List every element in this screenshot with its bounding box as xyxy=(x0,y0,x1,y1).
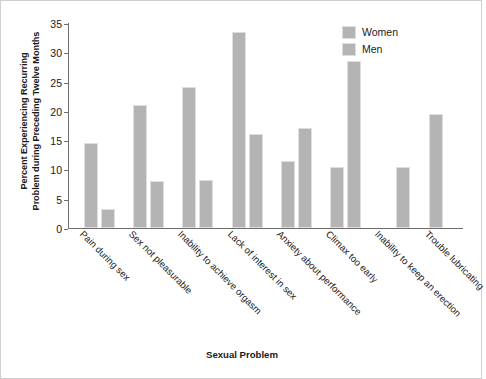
x-axis-tick-label: Climax too early xyxy=(324,229,380,285)
y-axis-tick-label: 10 xyxy=(38,165,62,175)
x-axis-title: Sexual Problem xyxy=(1,349,483,360)
bar-women xyxy=(330,167,344,229)
bar-men xyxy=(347,61,361,228)
x-axis-tick-label: Inability to keep an erection xyxy=(373,229,463,319)
bar-group xyxy=(429,23,456,228)
bar-group xyxy=(182,23,209,228)
bar-women xyxy=(84,143,98,228)
y-axis-tick-label: 5 xyxy=(38,195,62,205)
bar-men xyxy=(298,128,312,228)
legend-item-women: Women xyxy=(342,25,398,39)
bar-group xyxy=(133,23,160,228)
y-axis-tick-label: 20 xyxy=(38,107,62,117)
legend: Women Men xyxy=(342,25,398,56)
bar-men xyxy=(396,167,410,228)
y-axis-tick-label: 30 xyxy=(38,48,62,58)
bar-men xyxy=(199,180,213,228)
y-axis-tick-label: 35 xyxy=(38,19,62,29)
legend-swatch-men-icon xyxy=(342,43,356,56)
plot-area: 05101520253035 xyxy=(68,23,463,229)
bar-group xyxy=(281,23,308,228)
legend-item-men: Men xyxy=(342,42,398,56)
bar-women xyxy=(182,87,196,228)
y-axis-tick-mark xyxy=(64,83,68,84)
bar-men xyxy=(101,209,115,228)
x-axis-tick-label: Pain during sex xyxy=(78,229,132,283)
x-axis-tick-labels: Pain during sexSex not pleasurableInabil… xyxy=(68,229,463,339)
y-axis-tick-label: 25 xyxy=(38,78,62,88)
bar-group xyxy=(232,23,259,228)
bar-women xyxy=(133,105,147,228)
legend-swatch-women-icon xyxy=(342,26,356,39)
y-axis-tick-mark xyxy=(64,141,68,142)
bar-men xyxy=(150,181,164,228)
y-axis-title: Percent Experiencing Recurring Problem d… xyxy=(7,1,53,241)
legend-label-men: Men xyxy=(362,44,382,55)
bar-group xyxy=(84,23,111,228)
y-axis-tick-mark xyxy=(64,24,68,25)
legend-label-women: Women xyxy=(362,27,398,38)
y-axis-tick-label: 0 xyxy=(38,224,62,234)
x-axis-tick-label: Anxiety about performance xyxy=(275,229,363,317)
bars-layer xyxy=(69,23,463,228)
y-axis-title-line1: Percent Experiencing Recurring xyxy=(18,32,30,211)
y-axis-tick-label: 15 xyxy=(38,136,62,146)
x-axis-tick-label: Inability to achieve orgasm xyxy=(176,229,263,316)
y-axis-tick-mark xyxy=(64,53,68,54)
y-axis-title-line2: Problem during Preceding Twelve Months xyxy=(30,32,42,211)
y-axis-tick-mark xyxy=(64,170,68,171)
bar-women xyxy=(232,32,246,228)
bar-men xyxy=(249,134,263,228)
bar-women xyxy=(429,114,443,228)
bar-women xyxy=(281,161,295,228)
y-axis-tick-mark xyxy=(64,200,68,201)
y-axis-tick-mark xyxy=(64,112,68,113)
